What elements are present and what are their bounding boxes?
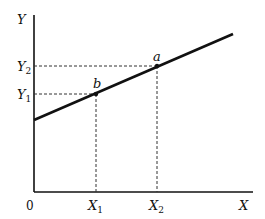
diagram-canvas: b a Y X 0 Y2 Y1 X1 X2: [0, 0, 265, 219]
y2-label: Y2: [17, 59, 31, 76]
point-a-label: a: [153, 49, 161, 64]
x1-label: X1: [87, 198, 103, 215]
origin-label: 0: [26, 199, 34, 213]
y-axis-label: Y: [17, 12, 27, 27]
point-a: [155, 64, 159, 68]
x2-label: X2: [148, 198, 164, 215]
function-line: [34, 34, 233, 120]
y1-label: Y1: [17, 87, 31, 104]
point-b-label: b: [93, 76, 101, 91]
x-axis-label: X: [238, 198, 249, 213]
point-b: [94, 92, 98, 96]
